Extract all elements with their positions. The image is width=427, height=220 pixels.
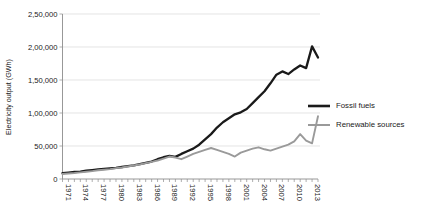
data-series xyxy=(63,46,319,174)
legend-label: Fossil fuels xyxy=(336,101,375,110)
x-tick-label: 1995 xyxy=(206,184,215,201)
gridlines xyxy=(63,14,321,146)
x-tick-label: 2013 xyxy=(313,184,322,201)
chart-legend: Fossil fuelsRenewable sources xyxy=(308,101,405,129)
y-tick-label: 50,000 xyxy=(34,142,57,151)
x-tick-label: 1974 xyxy=(81,184,90,201)
x-tick-label: 2004 xyxy=(260,184,269,201)
x-tick-label: 1986 xyxy=(153,184,162,201)
x-tick-label: 1992 xyxy=(188,184,197,201)
y-tick-label: 1,00,000 xyxy=(28,109,58,118)
x-tick-label: 2001 xyxy=(242,184,251,201)
y-axis-title: Electricity output (GWh) xyxy=(4,59,13,135)
x-tick-label: 1998 xyxy=(224,184,233,201)
x-tick-label: 1980 xyxy=(117,184,126,201)
legend-label: Renewable sources xyxy=(336,120,405,129)
x-tick-label: 1989 xyxy=(170,184,179,201)
chart-container: 050,0001,00,0001,50,0002,00,0002,50,000 … xyxy=(0,0,427,220)
series-line xyxy=(63,116,319,174)
x-tick-label: 1977 xyxy=(99,184,108,201)
y-tick-label: 2,50,000 xyxy=(28,10,58,19)
y-tick-label: 0 xyxy=(53,175,57,184)
x-tick-label: 1983 xyxy=(135,184,144,201)
x-tick-label: 1971 xyxy=(64,184,73,201)
x-axis-ticks: 1971197419771980198319861989199219951998… xyxy=(63,179,323,201)
y-axis-ticks: 050,0001,00,0001,50,0002,00,0002,50,000 xyxy=(28,10,63,184)
x-tick-label: 2010 xyxy=(295,184,304,201)
line-chart: 050,0001,00,0001,50,0002,00,0002,50,000 … xyxy=(0,0,427,220)
series-line xyxy=(63,46,319,173)
x-tick-label: 2007 xyxy=(277,184,286,201)
y-tick-label: 1,50,000 xyxy=(28,76,58,85)
y-tick-label: 2,00,000 xyxy=(28,43,58,52)
